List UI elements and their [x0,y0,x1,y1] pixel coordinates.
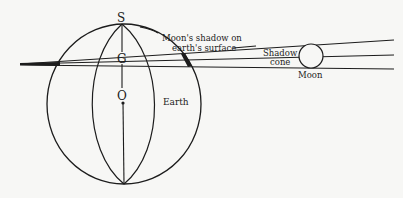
axis-lower [123,103,124,184]
moon-circle [299,44,323,68]
eclipse-diagram: S G O Earth Moon's shadow on earth's sur… [0,0,403,198]
label-G: G [117,52,127,66]
label-earth: Earth [163,97,189,107]
label-shadow-cone-2: cone [270,57,290,67]
cone-middle-line [20,55,394,64]
label-S: S [117,11,125,25]
meridian-right [122,24,155,184]
label-O: O [117,89,127,103]
label-shadow-on-surface-2: earth's surface [172,43,236,53]
label-moon: Moon [298,70,323,80]
label-leader-shadow [233,46,256,48]
cone-lower-line [20,65,394,69]
meridian-left [92,24,124,184]
label-shadow-on-surface-1: Moon's shadow on [162,33,242,43]
